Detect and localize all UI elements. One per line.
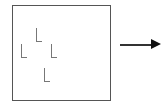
l-shape-item-2 [21, 44, 27, 58]
l-shape-item-1 [36, 28, 42, 42]
arrow-shaft [120, 44, 152, 46]
arrow-right-icon [151, 39, 161, 49]
l-shape-item-3 [51, 44, 57, 58]
l-shape-item-4 [44, 68, 50, 82]
